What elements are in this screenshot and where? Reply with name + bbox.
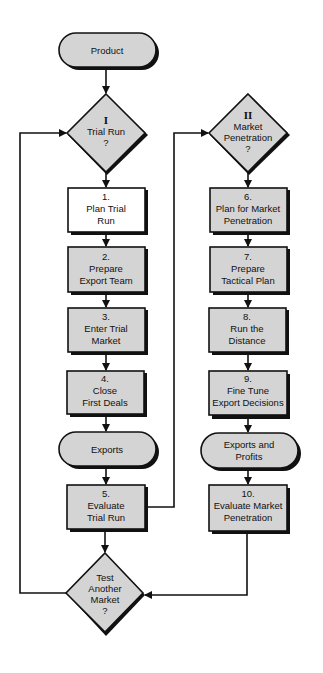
label: Export Team xyxy=(79,275,132,286)
label: Prepare xyxy=(89,263,123,274)
step-10: 10. Evaluate Market Penetration xyxy=(209,485,290,534)
label: Penetration xyxy=(224,512,273,523)
label: Market xyxy=(233,121,262,132)
decision-trial-run: I Trial Run ? xyxy=(67,94,148,175)
label: Trial Run xyxy=(87,126,125,137)
label: Test xyxy=(96,572,114,583)
label: 2. xyxy=(102,251,110,262)
label: Another xyxy=(88,583,121,594)
flowchart: Product I Trial Run ? II Market Penetrat… xyxy=(0,0,323,673)
step-9: 9. Fine Tune Export Decisions xyxy=(209,371,290,419)
label: Prepare xyxy=(231,263,265,274)
label: Run the xyxy=(230,323,263,334)
label: 10. xyxy=(241,488,254,499)
label: ? xyxy=(245,143,250,154)
label: 3. xyxy=(102,311,110,322)
label: Close xyxy=(93,385,117,396)
label: Plan for Market xyxy=(216,203,281,214)
label: 9. xyxy=(244,373,252,384)
terminal-exports: Exports xyxy=(59,432,159,469)
step-4: 4. Close First Deals xyxy=(67,371,147,417)
step-7: 7. Prepare Tactical Plan xyxy=(210,247,290,295)
step-5: 5. Evaluate Trial Run xyxy=(67,485,148,532)
label: 7. xyxy=(244,251,252,262)
label: Exports xyxy=(91,444,123,455)
label: Fine Tune xyxy=(227,385,269,396)
label: Plan Trial xyxy=(86,203,126,214)
label: Run xyxy=(97,215,114,226)
label: Export Decisions xyxy=(212,397,284,408)
label: Distance xyxy=(229,335,266,346)
step-2: 2. Prepare Export Team xyxy=(68,247,148,295)
label: Market xyxy=(91,335,120,346)
label: Evaluate Market xyxy=(214,500,283,511)
label: 5. xyxy=(102,488,110,499)
label: Enter Trial xyxy=(84,323,127,334)
step-8: 8. Run the Distance xyxy=(209,308,289,355)
label: Tactical Plan xyxy=(221,275,274,286)
label: Market xyxy=(90,594,119,605)
loop-test-another-to-trial-run xyxy=(20,133,66,593)
label: 4. xyxy=(101,373,109,384)
step-6: 6. Plan for Market Penetration xyxy=(210,188,290,235)
label: Trial Run xyxy=(87,512,125,523)
start-terminal-product: Product xyxy=(59,33,159,70)
label: I xyxy=(104,114,108,126)
decision-market-penetration: II Market Penetration ? xyxy=(209,94,290,175)
label: II xyxy=(244,109,253,121)
label: 8. xyxy=(243,311,251,322)
label: 1. xyxy=(102,191,110,202)
label: Profits xyxy=(236,451,263,462)
step-1: 1. Plan Trial Run xyxy=(68,188,148,235)
label: ? xyxy=(102,605,107,616)
decision-test-another-market: Test Another Market ? xyxy=(66,553,145,636)
label: Penetration xyxy=(224,132,273,143)
label: First Deals xyxy=(82,397,128,408)
arrow-evaluate-market-to-test xyxy=(145,533,247,595)
label: Product xyxy=(91,45,124,56)
step-3: 3. Enter Trial Market xyxy=(68,308,148,355)
label: Evaluate xyxy=(88,500,125,511)
label: Exports and xyxy=(224,439,275,450)
terminal-exports-and-profits: Exports and Profits xyxy=(201,433,301,471)
label: Penetration xyxy=(224,215,273,226)
label: 6. xyxy=(244,191,252,202)
label: ? xyxy=(103,137,108,148)
